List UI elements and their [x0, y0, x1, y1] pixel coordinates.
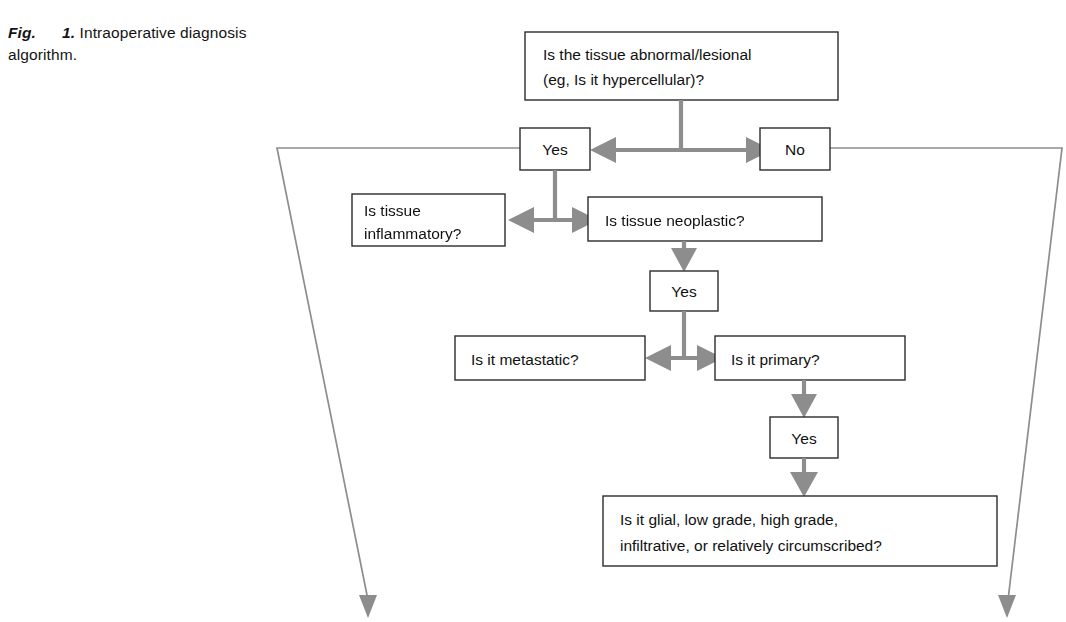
node-yes-1: Yes — [520, 128, 590, 170]
inflammatory-line1: Is tissue — [364, 202, 421, 219]
node-inflammatory-question: Is tissue inflammatory? — [352, 194, 505, 246]
no-1-label: No — [785, 141, 805, 158]
edge-primary-to-yes3 — [791, 380, 817, 418]
primary-label: Is it primary? — [731, 351, 820, 368]
yes-1-label: Yes — [542, 141, 568, 158]
node-neoplastic-question: Is tissue neoplastic? — [588, 197, 822, 241]
node-root-question: Is the tissue abnormal/lesional (eg, Is … — [525, 32, 838, 100]
root-question-line1: Is the tissue abnormal/lesional — [543, 46, 752, 63]
yes-2-label: Yes — [671, 283, 697, 300]
node-metastatic-question: Is it metastatic? — [455, 336, 645, 380]
node-yes-3: Yes — [770, 417, 838, 458]
flowchart-diagram: Is the tissue abnormal/lesional (eg, Is … — [0, 0, 1066, 622]
yes-3-label: Yes — [791, 430, 817, 447]
edge-yes3-to-final — [790, 458, 818, 497]
node-final-question: Is it glial, low grade, high grade, infi… — [603, 496, 997, 566]
node-yes-2: Yes — [650, 271, 718, 311]
node-primary-question: Is it primary? — [715, 336, 905, 380]
edge-neoplastic-to-yes2 — [671, 241, 697, 272]
figure-root: Fig.1. Intraoperative diagnosis algorith… — [0, 0, 1066, 622]
final-line2: infiltrative, or relatively circumscribe… — [620, 537, 882, 554]
final-line1: Is it glial, low grade, high grade, — [620, 511, 838, 528]
metastatic-label: Is it metastatic? — [471, 351, 579, 368]
root-question-line2: (eg, Is it hypercellular)? — [543, 71, 704, 88]
node-no-1: No — [760, 128, 830, 170]
inflammatory-line2: inflammatory? — [364, 225, 462, 242]
neoplastic-label: Is tissue neoplastic? — [605, 212, 745, 229]
